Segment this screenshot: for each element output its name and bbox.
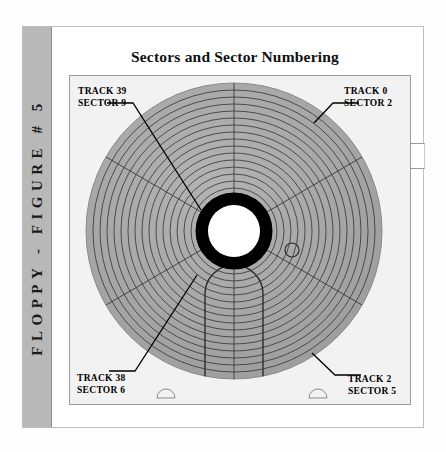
figure-side-bar: FLOPPY - FIGURE # 5 xyxy=(23,27,52,427)
figure-side-label: FLOPPY - FIGURE # 5 xyxy=(29,98,46,355)
annotation-track-0-sector-2: TRACK 0 SECTOR 2 xyxy=(344,86,392,109)
floppy-disk-diagram xyxy=(69,75,411,405)
annotation-line-2: SECTOR 9 xyxy=(78,98,127,110)
annotation-line-2: SECTOR 5 xyxy=(348,386,396,398)
annotation-line-1: TRACK 0 xyxy=(344,86,388,96)
annotation-line-1: TRACK 2 xyxy=(348,374,392,384)
center-hub-hole xyxy=(208,205,260,257)
leader-track-2 xyxy=(312,353,361,375)
annotation-track-39-sector-9: TRACK 39 SECTOR 9 xyxy=(78,86,127,109)
annotation-line-1: TRACK 39 xyxy=(78,86,127,96)
annotation-track-38-sector-6: TRACK 38 SECTOR 6 xyxy=(77,373,126,396)
annotation-line-2: SECTOR 6 xyxy=(77,385,126,397)
figure-page: FLOPPY - FIGURE # 5 Sectors and Sector N… xyxy=(0,0,446,452)
annotation-line-2: SECTOR 2 xyxy=(344,98,392,110)
figure-title: Sectors and Sector Numbering xyxy=(60,48,410,66)
write-protect-notch xyxy=(409,143,425,169)
bottom-notches xyxy=(157,389,327,398)
annotation-track-2-sector-5: TRACK 2 SECTOR 5 xyxy=(348,374,396,397)
annotation-line-1: TRACK 38 xyxy=(77,373,126,383)
